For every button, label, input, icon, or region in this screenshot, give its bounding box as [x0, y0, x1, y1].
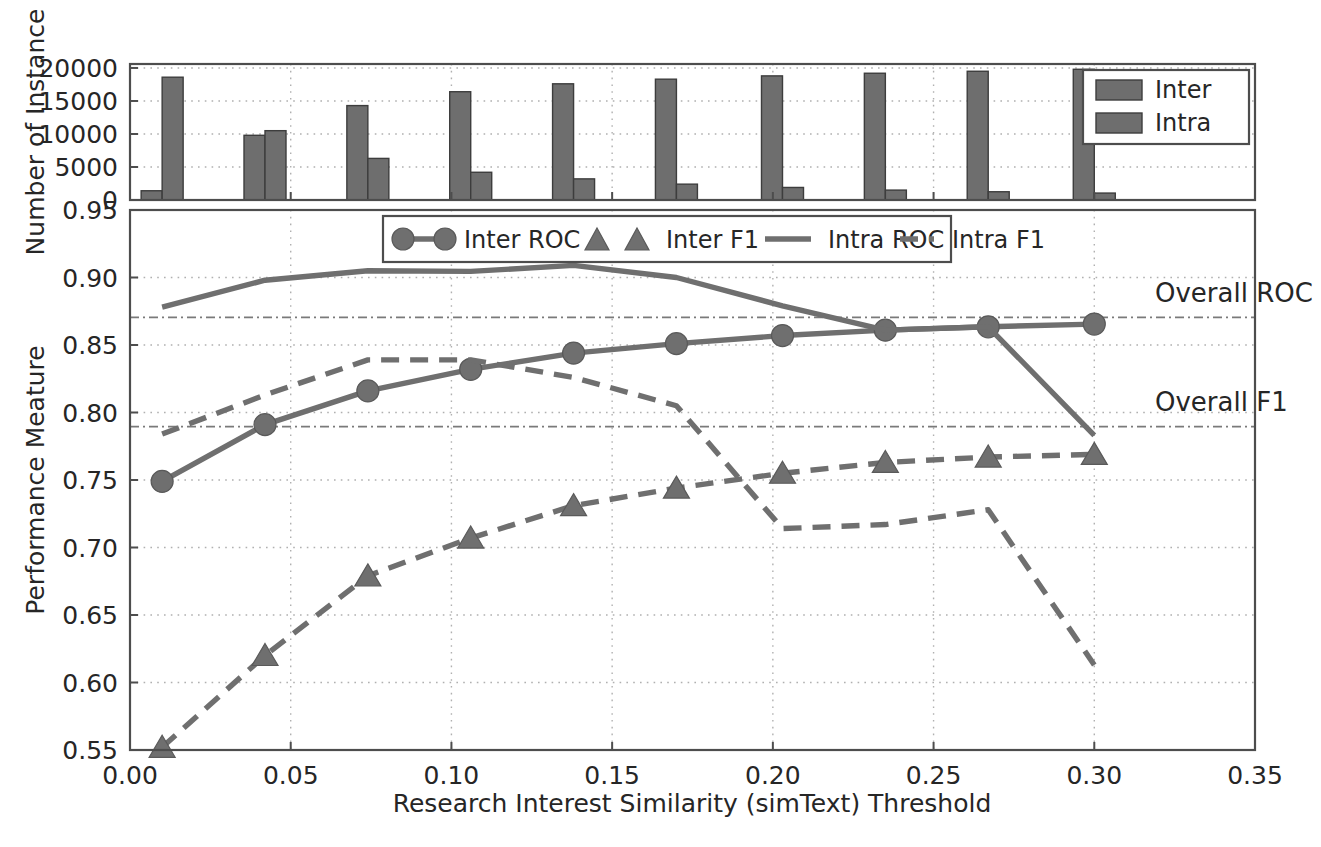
bar-legend-swatch-inter [1096, 80, 1142, 100]
top-panel-y-axis-title: Number of Instance [21, 9, 50, 256]
reference-lines-group [130, 317, 1255, 426]
bar-inter [655, 79, 676, 200]
main-panel-x-tick-label: 0.35 [1227, 761, 1283, 790]
main-panel-x-tick-label: 0.10 [424, 761, 480, 790]
annotation-overall-f1: Overall F1 [1155, 387, 1288, 417]
bar-intra [988, 192, 1009, 200]
bar-intra [368, 158, 389, 200]
figure-container: 05000100001500020000 Number of Instance … [0, 0, 1321, 847]
main-panel-y-tick-label: 0.85 [62, 331, 118, 360]
main-panel-y-tick-label: 0.80 [62, 399, 118, 428]
main-panel-x-tick-label: 0.25 [906, 761, 962, 790]
main-panel-y-tick-label: 0.95 [62, 196, 118, 225]
bar-intra [471, 172, 492, 200]
main-panel-y-axis-title: Performance Meature [21, 345, 50, 614]
main-panel-x-tick-label: 0.00 [102, 761, 158, 790]
main-panel: 0.550.600.650.700.750.800.850.900.95 0.0… [21, 196, 1313, 818]
bar-intra [162, 77, 183, 200]
bar-legend-label-intra: Intra [1155, 109, 1211, 137]
bar-inter [347, 106, 368, 200]
bar-inter [244, 135, 265, 200]
top-panel-y-tick-label: 5000 [54, 153, 118, 182]
bar-inter [762, 76, 783, 200]
main-panel-x-tick-label: 0.05 [263, 761, 319, 790]
data-point-marker [151, 470, 173, 492]
bar-legend-swatch-intra [1096, 113, 1142, 133]
data-point-marker [1083, 313, 1105, 335]
line-series-group [149, 265, 1107, 757]
top-panel-y-tick-label: 20000 [38, 54, 118, 83]
bar-inter [141, 191, 162, 200]
line-legend-label-intra-roc: Intra ROC [828, 226, 944, 254]
data-point-marker [665, 333, 687, 355]
bar-intra [265, 131, 286, 200]
main-panel-y-ticks: 0.550.600.650.700.750.800.850.900.95 [62, 196, 138, 765]
bar-legend-label-inter: Inter [1155, 76, 1211, 104]
top-panel-y-ticks: 05000100001500020000 [38, 54, 138, 215]
line-legend[interactable]: Inter ROC Inter F1 Intra ROC Intra F1 [383, 216, 1045, 262]
line-legend-label-inter-f1: Inter F1 [666, 226, 759, 254]
bar-intra [885, 190, 906, 200]
bar-inter [967, 71, 988, 200]
bar-inter [450, 92, 471, 200]
bar-inter [864, 73, 885, 200]
main-panel-y-tick-label: 0.65 [62, 601, 118, 630]
main-panel-y-tick-label: 0.75 [62, 466, 118, 495]
main-panel-x-axis-title: Research Interest Similarity (simText) T… [393, 789, 992, 818]
bar-intra [574, 179, 595, 200]
circle-marker-icon [392, 228, 414, 250]
top-panel-y-tick-label: 10000 [38, 120, 118, 149]
line-legend-label-intra-f1: Intra F1 [952, 226, 1045, 254]
top-panel-y-tick-label: 15000 [38, 87, 118, 116]
main-panel-y-tick-label: 0.70 [62, 534, 118, 563]
data-point-marker [254, 414, 276, 436]
main-panel-gridlines [130, 210, 1255, 750]
main-panel-y-tick-label: 0.60 [62, 669, 118, 698]
bar-intra [783, 187, 804, 200]
main-panel-x-tick-label: 0.15 [584, 761, 640, 790]
data-point-marker [563, 342, 585, 364]
annotation-overall-roc: Overall ROC [1155, 278, 1313, 308]
chart-figure: 05000100001500020000 Number of Instance … [0, 0, 1321, 847]
bar-inter [553, 84, 574, 200]
circle-marker-icon [434, 228, 456, 250]
main-panel-frame [130, 210, 1255, 750]
series-line-inter-roc [162, 324, 1094, 481]
main-panel-x-tick-label: 0.20 [745, 761, 801, 790]
series-line-intra-f1 [162, 360, 1094, 665]
data-point-marker [772, 325, 794, 347]
series-line-inter-f1 [162, 454, 1094, 747]
bar-intra [676, 184, 697, 200]
main-panel-x-tick-label: 0.30 [1066, 761, 1122, 790]
line-legend-label-inter-roc: Inter ROC [464, 226, 580, 254]
bar-legend[interactable]: Inter Intra [1083, 70, 1249, 144]
data-point-marker [357, 380, 379, 402]
main-panel-y-tick-label: 0.90 [62, 264, 118, 293]
